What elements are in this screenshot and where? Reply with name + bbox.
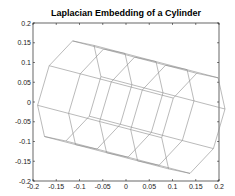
x-tick-label: -0.05 — [95, 183, 111, 190]
x-tick-label: 0.15 — [189, 183, 203, 190]
y-axis-ticks: 0.20.150.10.050-0.05-0.1-0.15-0.2 — [15, 20, 219, 185]
x-tick-label: -0.1 — [73, 183, 85, 190]
y-tick-label: 0.05 — [17, 79, 31, 86]
x-tick-label: -0.15 — [48, 183, 64, 190]
x-tick-label: 0.05 — [142, 183, 156, 190]
x-tick-label: 0.1 — [168, 183, 178, 190]
chart-plot: -0.2-0.15-0.1-0.0500.050.10.150.2 0.20.1… — [0, 0, 235, 196]
y-tick-label: 0.15 — [17, 39, 31, 46]
x-tick-label: 0 — [124, 183, 128, 190]
y-tick-label: 0 — [27, 99, 31, 106]
y-tick-label: 0.1 — [21, 59, 31, 66]
cylinder-wireframe — [38, 41, 225, 174]
plot-frame — [33, 23, 219, 181]
y-tick-label: -0.05 — [15, 118, 31, 125]
y-tick-label: -0.1 — [19, 138, 31, 145]
y-tick-label: -0.15 — [15, 158, 31, 165]
y-tick-label: 0.2 — [21, 20, 31, 27]
y-tick-label: -0.2 — [19, 178, 31, 185]
x-tick-label: 0.2 — [214, 183, 224, 190]
